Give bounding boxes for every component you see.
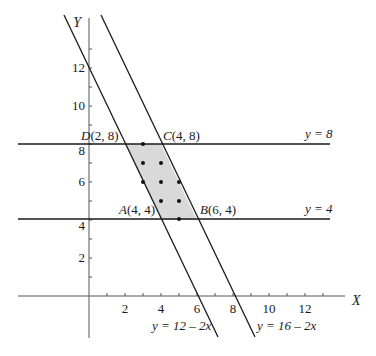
svg-text:C(4, 8): C(4, 8) <box>163 128 200 143</box>
lattice-point <box>159 161 163 165</box>
x-tick-label: 6 <box>194 301 201 316</box>
y-tick-label: 4 <box>79 218 86 233</box>
label-y-8: y = 8 <box>303 126 333 141</box>
vertex-label-c: C(4, 8) <box>163 128 200 143</box>
y-tick-label: 8 <box>79 143 86 158</box>
x-tick-label: 12 <box>299 301 312 316</box>
svg-text:B(6, 4): B(6, 4) <box>200 202 236 217</box>
svg-text:A(4, 4): A(4, 4) <box>118 202 155 217</box>
lattice-point <box>159 199 163 203</box>
vertex-label-d: D(2, 8) <box>80 128 119 143</box>
x-tick-label: 10 <box>263 301 276 316</box>
label-y-16-minus-2x: y = 16 – 2x <box>255 318 317 333</box>
lattice-point <box>177 217 181 221</box>
line-y-16-minus-2x <box>101 15 255 337</box>
label-y-4: y = 4 <box>303 201 333 216</box>
lattice-point <box>141 161 145 165</box>
x-tick-label: 8 <box>230 301 237 316</box>
lattice-point <box>141 142 145 146</box>
vertex-label-a: A(4, 4) <box>118 202 155 217</box>
y-tick-label: 2 <box>79 250 86 265</box>
lattice-point <box>141 180 145 184</box>
lattice-point <box>177 180 181 184</box>
feasible-region-diagram: 2 4 6 8 10 12 2 4 6 8 10 12 X Y y = 8 y … <box>0 0 376 356</box>
svg-text:D(2, 8): D(2, 8) <box>80 128 119 143</box>
label-y-12-minus-2x: y = 12 – 2x <box>150 318 212 333</box>
lattice-point <box>177 199 181 203</box>
lattice-point <box>159 180 163 184</box>
y-tick-label: 10 <box>72 98 85 113</box>
x-axis-label: X <box>351 293 361 308</box>
y-tick-label: 6 <box>79 174 86 189</box>
x-tick-label: 4 <box>158 301 165 316</box>
y-tick-label: 12 <box>72 60 85 75</box>
line-y-12-minus-2x <box>64 15 218 337</box>
x-tick-label: 2 <box>122 301 129 316</box>
y-axis-label: Y <box>73 15 83 30</box>
vertex-label-b: B(6, 4) <box>200 202 236 217</box>
